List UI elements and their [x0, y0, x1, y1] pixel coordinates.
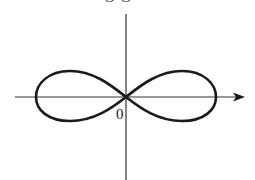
top-partial-label: O O: [104, 0, 132, 6]
origin-label: 0: [116, 106, 124, 123]
lemniscate-diagram: [0, 0, 255, 180]
